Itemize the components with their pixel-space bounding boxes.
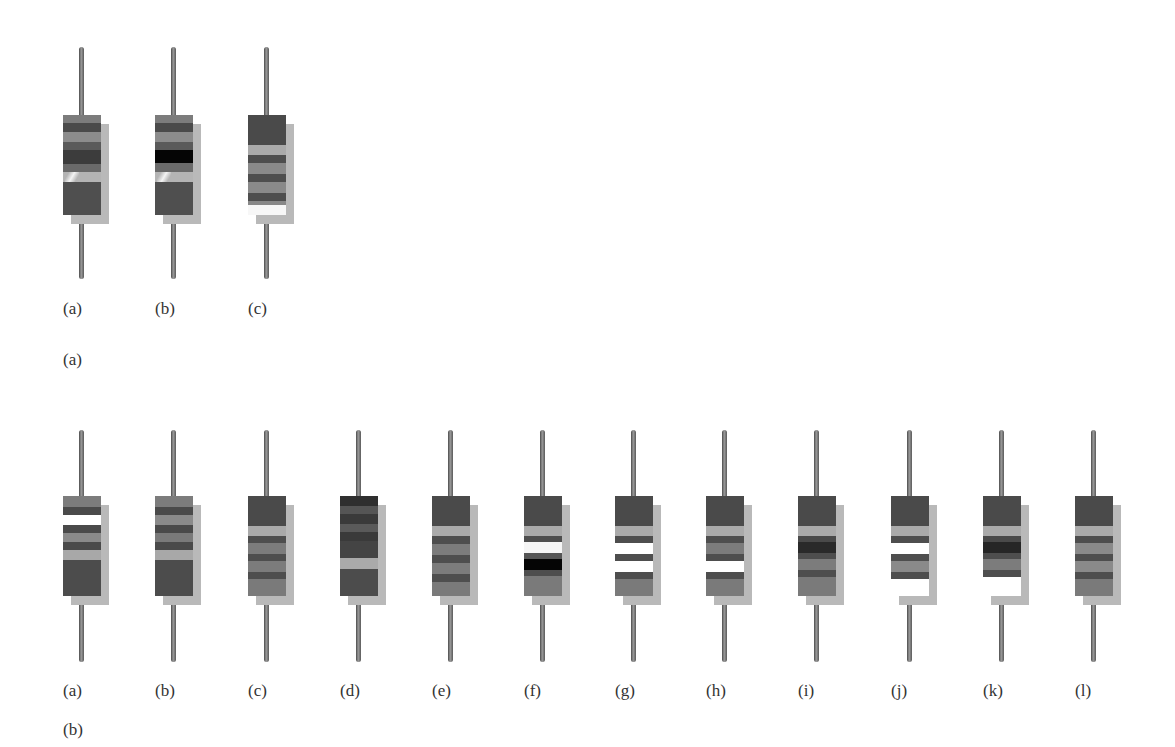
- color-band: [248, 572, 286, 579]
- resistor: [248, 430, 308, 662]
- color-band: [248, 174, 286, 182]
- color-band: [706, 572, 744, 579]
- color-band: [615, 536, 653, 543]
- color-band: [248, 193, 286, 201]
- resistor: [798, 430, 858, 662]
- color-band: [248, 115, 286, 145]
- color-band: [1075, 561, 1113, 572]
- resistor-label: (l): [1075, 681, 1091, 701]
- color-band: [432, 582, 470, 596]
- color-band: [524, 559, 562, 570]
- color-band: [891, 572, 929, 579]
- color-band: [340, 532, 378, 541]
- color-band: [248, 155, 286, 163]
- color-band: [891, 561, 929, 572]
- color-band: [340, 569, 378, 596]
- color-band: [798, 577, 836, 596]
- color-band: [340, 506, 378, 514]
- color-band: [798, 542, 836, 553]
- color-band: [891, 579, 929, 596]
- resistor-body: [340, 496, 378, 596]
- color-band: [615, 526, 653, 536]
- color-band: [891, 543, 929, 554]
- color-band: [432, 496, 470, 526]
- resistor-label: (e): [432, 681, 451, 701]
- color-band: [155, 123, 193, 132]
- resistor-label: (g): [615, 681, 635, 701]
- color-band: [155, 507, 193, 515]
- color-band: [891, 554, 929, 561]
- panel-b-label: (b): [63, 720, 83, 740]
- resistor-label: (h): [706, 681, 726, 701]
- color-band: [615, 579, 653, 596]
- color-band: [1075, 554, 1113, 561]
- resistor-body: [248, 496, 286, 596]
- color-band: [63, 560, 101, 596]
- color-band: [248, 145, 286, 155]
- color-band: [615, 543, 653, 554]
- resistor: [615, 430, 675, 662]
- color-band: [155, 525, 193, 533]
- panel-a-label: (a): [63, 350, 82, 370]
- resistor: [63, 430, 123, 662]
- resistor-body: [1075, 496, 1113, 596]
- resistor-label: (i): [798, 681, 814, 701]
- color-band: [340, 541, 378, 558]
- color-band: [798, 570, 836, 577]
- resistor-body: [432, 496, 470, 596]
- resistor-label: (a): [63, 681, 82, 701]
- color-band: [63, 550, 101, 560]
- resistor-label: (j): [891, 681, 907, 701]
- color-band: [1075, 536, 1113, 543]
- color-band: [248, 182, 286, 193]
- color-band: [1075, 526, 1113, 536]
- color-band: [798, 559, 836, 570]
- color-band: [524, 496, 562, 526]
- color-band: [155, 182, 193, 215]
- color-band: [891, 526, 929, 536]
- resistor: [155, 430, 215, 662]
- color-band: [248, 205, 286, 215]
- color-band: [63, 123, 101, 132]
- color-band: [340, 514, 378, 524]
- resistor-body: [63, 115, 101, 215]
- resistor: [340, 430, 400, 662]
- color-band: [63, 115, 101, 123]
- color-band: [340, 558, 378, 569]
- color-band: [155, 550, 193, 560]
- color-band: [524, 526, 562, 536]
- color-band: [155, 172, 193, 182]
- color-band: [706, 554, 744, 561]
- resistor-body: [615, 496, 653, 596]
- color-band: [1075, 579, 1113, 596]
- resistor: [524, 430, 584, 662]
- color-band: [63, 142, 101, 150]
- color-band: [706, 536, 744, 543]
- resistor-label: (b): [155, 299, 175, 319]
- color-band: [155, 150, 193, 163]
- color-band: [248, 543, 286, 554]
- color-band: [432, 563, 470, 574]
- color-band: [983, 526, 1021, 536]
- color-band: [248, 526, 286, 536]
- resistor-label: (c): [248, 681, 267, 701]
- color-band: [432, 574, 470, 582]
- resistor: [63, 47, 123, 279]
- color-band: [248, 561, 286, 572]
- color-band: [432, 536, 470, 544]
- color-band: [432, 555, 470, 563]
- color-band: [63, 542, 101, 550]
- color-band: [706, 543, 744, 554]
- color-band: [1075, 496, 1113, 526]
- resistor: [1075, 430, 1135, 662]
- color-band: [706, 579, 744, 596]
- resistor-body: [706, 496, 744, 596]
- color-band: [63, 525, 101, 533]
- color-band: [155, 560, 193, 596]
- color-band: [983, 577, 1021, 596]
- color-band: [340, 524, 378, 532]
- color-band: [248, 536, 286, 543]
- color-band: [615, 572, 653, 579]
- color-band: [340, 496, 378, 506]
- color-band: [983, 559, 1021, 570]
